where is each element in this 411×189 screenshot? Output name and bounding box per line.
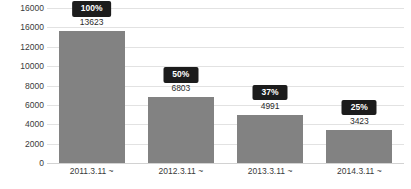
x-axis-tick-label: 2012.3.11 ~ bbox=[159, 167, 204, 176]
percent-badge: 25% bbox=[342, 100, 377, 116]
y-axis-tick-label: 2000 bbox=[0, 139, 44, 148]
x-axis-tick-label: 2014.3.11 ~ bbox=[337, 167, 382, 176]
bar-chart: 1600016000120001000080006000400020000 13… bbox=[0, 0, 411, 189]
bar[interactable] bbox=[59, 31, 125, 163]
y-axis-tick-label: 8000 bbox=[0, 81, 44, 90]
bar-value-label: 6803 bbox=[171, 84, 190, 93]
percent-badge: 37% bbox=[253, 85, 288, 101]
bar[interactable] bbox=[148, 97, 214, 163]
gridline bbox=[47, 27, 404, 28]
percent-badge: 100% bbox=[72, 1, 112, 17]
y-axis-tick-label: 12000 bbox=[0, 43, 44, 52]
y-axis-tick-label: 0 bbox=[0, 159, 44, 168]
y-axis-tick-label: 6000 bbox=[0, 101, 44, 110]
y-axis-tick-label: 10000 bbox=[0, 62, 44, 71]
plot-area: 13623100%680350%499137%342325% bbox=[47, 8, 404, 163]
x-axis: 2011.3.11 ~2012.3.11 ~2013.3.11 ~2014.3.… bbox=[47, 167, 404, 187]
axis-baseline bbox=[47, 163, 404, 164]
bar[interactable] bbox=[326, 130, 392, 163]
bar[interactable] bbox=[237, 115, 303, 163]
bar-value-label: 4991 bbox=[261, 102, 280, 111]
y-axis-tick-label: 16000 bbox=[0, 23, 44, 32]
percent-badge: 50% bbox=[163, 67, 198, 83]
y-axis-tick-label: 4000 bbox=[0, 120, 44, 129]
bar-value-label: 3423 bbox=[350, 117, 369, 126]
bar-value-label: 13623 bbox=[80, 18, 104, 27]
x-axis-tick-label: 2013.3.11 ~ bbox=[248, 167, 293, 176]
x-axis-tick-label: 2011.3.11 ~ bbox=[70, 167, 114, 176]
y-axis-tick-label: 16000 bbox=[0, 4, 44, 13]
y-axis: 1600016000120001000080006000400020000 bbox=[0, 8, 44, 163]
